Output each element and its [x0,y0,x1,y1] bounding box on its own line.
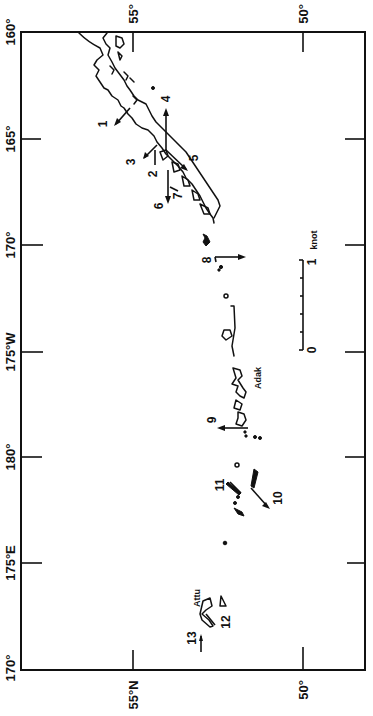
station-label-11: 11 [213,478,227,491]
lon-labels: 160° 165° 170° 175°W 180° 175°E 170° [3,19,18,682]
station-label-12: 12 [219,615,233,629]
station-label-3: 3 [124,158,138,165]
station-label-9: 9 [205,416,219,423]
map-canvas: 160° 165° 170° 175°W 180° 175°E 170° 55°… [0,0,373,716]
lon-label-175w: 175°W [3,332,18,372]
lon-label-165: 165° [3,126,18,153]
station-10-vector [251,488,270,509]
island-islands-of-four-mountains [203,234,210,246]
station-label-1: 1 [96,120,110,127]
island [116,36,124,48]
scale-min-label: 0 [305,346,319,353]
lon-label-175e: 175°E [3,545,18,581]
station-label-7: 7 [171,192,185,199]
lat-label-55-top: 55° [126,4,141,24]
place-label-attu: Attu [192,589,202,607]
lon-label-170: 170° [3,232,18,259]
station-label-6: 6 [152,202,166,209]
place-label-adak: Adak [253,366,263,389]
lat-label-50-top: 50° [296,4,311,24]
scale-bar: 1 0 knot [299,230,319,353]
island-adak [232,368,246,398]
station-label-4: 4 [159,95,173,102]
station-label-2: 2 [146,170,160,177]
aleutian-island-chain [200,234,262,627]
lon-label-180: 180° [3,444,18,471]
station-9-vector [217,425,248,431]
station-13-vector [199,634,203,652]
station-1-vector [114,108,130,126]
station-label-5: 5 [187,154,201,161]
scale-max-label: 1 [305,258,319,265]
island-rat [226,482,241,495]
station-label-10: 10 [271,491,285,505]
station-label-8: 8 [200,256,214,263]
lat-labels: 55° 50° 55°N 50° [126,4,311,709]
lat-label-55n-bottom: 55°N [126,680,141,709]
station-label-13: 13 [185,631,199,645]
station-5-vector [166,150,188,171]
station-7-vector [170,187,178,191]
island-andreanof-east [231,306,235,356]
lat-label-50-bottom: 50° [296,680,311,700]
scale-unit-label: knot [309,230,319,249]
station-8-vector [215,254,246,262]
island-semichi [220,596,226,606]
lon-label-170e: 170° [3,655,18,682]
lon-label-160: 160° [3,19,18,46]
